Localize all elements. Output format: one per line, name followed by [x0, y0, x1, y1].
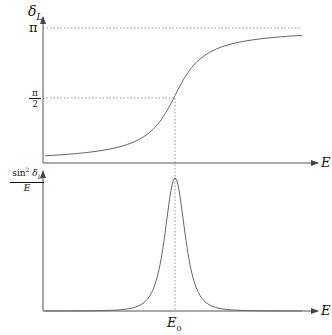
diagram-canvas	[0, 0, 332, 335]
top-y-axis-label: δL	[28, 3, 42, 22]
top-x-axis-label: E	[321, 155, 331, 170]
e0-tick-label: E0	[167, 315, 182, 333]
phase-shift-curve	[45, 35, 302, 155]
bottom-x-axis-label: E	[321, 303, 331, 318]
half-pi-tick-label: π 2	[29, 88, 41, 109]
pi-tick-label: π	[29, 20, 38, 35]
bottom-y-axis-label: sin2 δL E	[10, 165, 44, 193]
resonance-peak-curve	[45, 178, 302, 311]
